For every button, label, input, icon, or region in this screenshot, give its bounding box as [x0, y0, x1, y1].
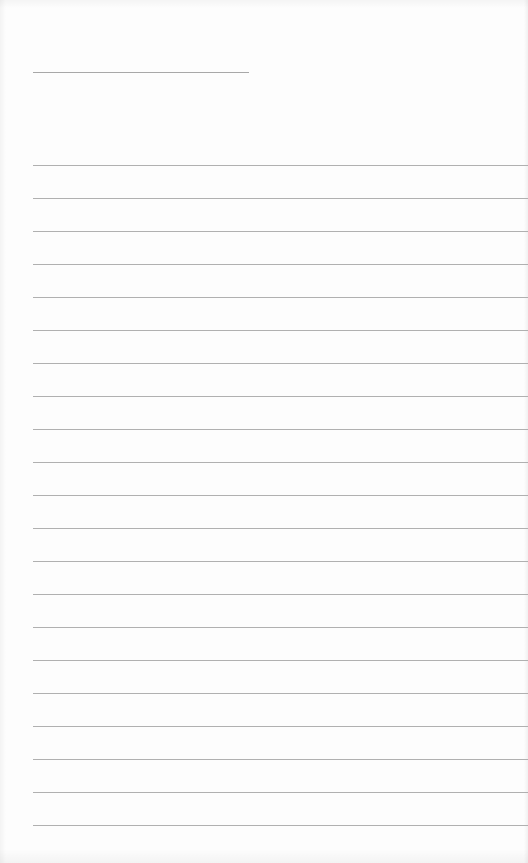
ruled-line[interactable]: [33, 165, 528, 166]
ruled-line[interactable]: [33, 825, 528, 826]
ruled-line[interactable]: [33, 363, 528, 364]
ruled-line[interactable]: [33, 330, 528, 331]
ruled-line[interactable]: [33, 693, 528, 694]
ruled-line[interactable]: [33, 528, 528, 529]
ruled-line[interactable]: [33, 429, 528, 430]
ruled-line[interactable]: [33, 561, 528, 562]
ruled-line[interactable]: [33, 462, 528, 463]
ruled-line[interactable]: [33, 198, 528, 199]
ruled-line[interactable]: [33, 297, 528, 298]
ruled-line[interactable]: [33, 495, 528, 496]
ruled-line[interactable]: [33, 759, 528, 760]
ruled-line[interactable]: [33, 594, 528, 595]
ruled-line[interactable]: [33, 792, 528, 793]
ruled-line[interactable]: [33, 726, 528, 727]
lined-paper-page: [0, 0, 528, 863]
ruled-line[interactable]: [33, 660, 528, 661]
ruled-lines-area: [0, 0, 528, 863]
ruled-line[interactable]: [33, 264, 528, 265]
ruled-line[interactable]: [33, 396, 528, 397]
ruled-line[interactable]: [33, 627, 528, 628]
ruled-line[interactable]: [33, 231, 528, 232]
